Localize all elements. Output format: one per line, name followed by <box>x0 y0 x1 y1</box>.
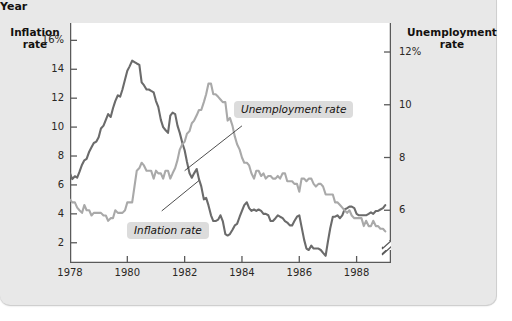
x-tick-label: 1986 <box>279 267 319 278</box>
left-tick-label: 8 <box>24 150 64 161</box>
right-axis-title-line1: Unemployment <box>396 26 508 38</box>
right-tick-label: 10 <box>399 99 439 110</box>
right-tick-label: 6 <box>399 204 439 215</box>
x-tick-label: 1978 <box>50 267 90 278</box>
left-tick-label: 12 <box>24 92 64 103</box>
left-tick-label: 4 <box>24 208 64 219</box>
leader-line-unemployment <box>185 126 242 171</box>
screenshot-root: Inflation rate Unemployment rate Year 24… <box>0 0 512 321</box>
series-line-inflation-rate <box>70 61 385 256</box>
leader-line-inflation <box>162 181 199 211</box>
series-group <box>70 61 385 256</box>
figure-card: Inflation rate Unemployment rate Year 24… <box>0 0 496 305</box>
x-tick-label: 1984 <box>222 267 262 278</box>
leader-lines-group <box>162 126 242 211</box>
x-tick-label: 1982 <box>165 267 205 278</box>
right-tick-label: 12% <box>399 46 439 57</box>
left-tick-label: 16% <box>24 34 64 45</box>
left-tick-label: 6 <box>24 179 64 190</box>
left-tick-label: 14 <box>24 63 64 74</box>
unemployment-rate-label: Unemployment rate <box>234 101 353 118</box>
left-tick-label: 10 <box>24 121 64 132</box>
right-tick-label: 8 <box>399 152 439 163</box>
x-axis-title: Year <box>0 0 60 13</box>
plot-area <box>70 23 391 263</box>
chart-svg <box>70 23 391 263</box>
axes-group <box>70 23 391 263</box>
left-tick-label: 2 <box>24 237 64 248</box>
inflation-rate-label: Inflation rate <box>127 222 209 239</box>
x-tick-label: 1988 <box>337 267 377 278</box>
x-tick-label: 1980 <box>107 267 147 278</box>
